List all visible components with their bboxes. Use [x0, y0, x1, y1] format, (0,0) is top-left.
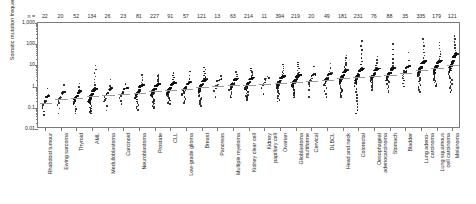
- data-point: [374, 72, 376, 74]
- data-point: [106, 105, 108, 107]
- data-point: [283, 70, 285, 72]
- data-point: [213, 90, 215, 92]
- data-point: [199, 100, 201, 102]
- data-point: [251, 71, 253, 73]
- data-point: [296, 78, 298, 80]
- data-point: [136, 101, 138, 103]
- data-point: [202, 83, 204, 85]
- data-point: [403, 80, 405, 82]
- data-point: [450, 85, 452, 87]
- data-point: [441, 60, 443, 62]
- y-minor-tick: [36, 116, 38, 117]
- data-point: [199, 101, 201, 103]
- data-point: [105, 98, 107, 100]
- data-point: [188, 81, 190, 83]
- y-minor-tick: [36, 110, 38, 111]
- data-point: [388, 91, 390, 93]
- data-point: [357, 73, 359, 75]
- data-point: [423, 57, 425, 59]
- data-point: [189, 78, 191, 80]
- y-minor-tick: [36, 89, 38, 90]
- sample-count-value: 26: [105, 13, 111, 19]
- data-point: [436, 65, 438, 67]
- y-minor-tick: [36, 76, 38, 77]
- data-point: [58, 100, 60, 102]
- x-label-low-grade-glioma: Low-grade glioma: [188, 133, 194, 176]
- data-point: [297, 73, 299, 75]
- x-tick: [296, 128, 297, 131]
- y-minor-tick: [36, 66, 38, 67]
- median-line: [447, 65, 459, 66]
- data-point: [236, 74, 238, 76]
- y-tick-10: 10: [29, 61, 35, 67]
- data-point: [434, 82, 436, 84]
- x-tick: [343, 128, 344, 131]
- data-point: [279, 94, 281, 96]
- data-point: [142, 79, 144, 81]
- data-point: [230, 97, 232, 99]
- data-point: [48, 94, 50, 96]
- data-point: [408, 60, 410, 62]
- data-point: [173, 81, 175, 83]
- data-point: [79, 83, 81, 85]
- x-label-lung-adenocarcinoma: Lung adeno-carcinoma: [423, 133, 435, 163]
- data-point: [371, 89, 373, 91]
- data-point: [345, 57, 347, 59]
- data-point: [422, 38, 424, 40]
- x-tick: [233, 128, 234, 131]
- data-point: [218, 84, 220, 86]
- y-minor-tick: [36, 123, 38, 124]
- sample-count-value: 52: [73, 13, 79, 19]
- y-minor-tick: [36, 90, 38, 91]
- x-label-bladder: Bladder: [407, 133, 413, 152]
- y-minor-tick: [36, 45, 38, 46]
- median-line: [259, 84, 271, 85]
- data-point: [94, 84, 96, 86]
- data-point: [205, 69, 207, 71]
- data-point: [375, 65, 377, 67]
- data-point: [279, 99, 281, 101]
- y-tick-001: 0.01: [25, 125, 35, 131]
- data-point: [157, 79, 159, 81]
- data-point: [439, 56, 441, 58]
- data-point: [419, 79, 421, 81]
- data-point: [392, 54, 394, 56]
- sample-count-value: 227: [150, 13, 159, 19]
- sample-count-value: 81: [136, 13, 142, 19]
- x-label-multiple-myeloma: Multiple myeloma: [235, 133, 241, 175]
- data-point: [75, 108, 77, 110]
- data-point: [346, 55, 348, 57]
- data-point: [95, 65, 97, 67]
- data-point: [141, 82, 143, 84]
- y-minor-tick: [36, 51, 38, 52]
- sample-count-value: 181: [338, 13, 347, 19]
- plot-area: [37, 22, 460, 128]
- y-minor-tick: [36, 67, 38, 68]
- data-point: [434, 75, 436, 77]
- x-tick: [249, 128, 250, 131]
- data-point: [297, 62, 299, 64]
- data-point: [363, 68, 365, 70]
- y-axis-tick-labels: 1,0001001010.10.01: [0, 0, 35, 204]
- data-point: [279, 80, 281, 82]
- y-minor-tick: [36, 28, 38, 29]
- data-point: [200, 98, 202, 100]
- data-point: [423, 45, 425, 47]
- data-point: [97, 88, 99, 90]
- data-point: [172, 75, 174, 77]
- y-minor-tick: [36, 111, 38, 112]
- mutation-frequency-figure: Somatic mutation frequency (/Mb) 1,00010…: [0, 0, 476, 204]
- data-point: [294, 91, 296, 93]
- sample-count-value: 121: [448, 13, 457, 19]
- sample-count-value: 20: [58, 13, 64, 19]
- median-line: [243, 85, 255, 86]
- data-point: [250, 81, 252, 83]
- y-minor-tick: [36, 119, 38, 120]
- x-tick: [186, 128, 187, 131]
- y-minor-tick: [36, 88, 38, 89]
- data-point: [418, 89, 420, 91]
- data-point: [355, 113, 357, 115]
- sample-count-value: 63: [230, 13, 236, 19]
- data-point: [91, 93, 93, 95]
- data-point: [436, 83, 438, 85]
